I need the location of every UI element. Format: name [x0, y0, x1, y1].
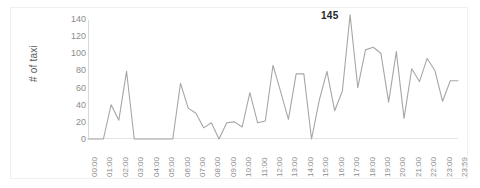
x-tick-label: 16:00 — [338, 157, 346, 177]
x-tick-label: 17:00 — [353, 157, 361, 177]
x-tick-label: 22:00 — [430, 157, 438, 177]
taxi-count-line-series — [88, 15, 458, 139]
x-tick-label: 08:00 — [214, 157, 222, 177]
y-axis-tick-labels: 140120100806040200 — [56, 19, 86, 143]
x-tick-label: 19:00 — [384, 157, 392, 177]
x-tick-label: 09:00 — [230, 157, 238, 177]
x-tick-label: 13:00 — [291, 157, 299, 177]
x-tick-label: 07:00 — [199, 157, 207, 177]
x-tick-label: 18:00 — [369, 157, 377, 177]
x-tick-label: 10:00 — [245, 157, 253, 177]
x-tick-label: 12:00 — [276, 157, 284, 177]
x-tick-label: 14:00 — [307, 157, 315, 177]
plot-area — [88, 19, 458, 139]
x-tick-label: 03:00 — [137, 157, 145, 177]
x-tick-label: 04:00 — [153, 157, 161, 177]
y-tick-label: 60 — [76, 84, 86, 93]
x-tick-label: 05:00 — [168, 157, 176, 177]
x-tick-label: 02:00 — [122, 157, 130, 177]
y-tick-label: 20 — [76, 118, 86, 127]
x-tick-label: 01:00 — [106, 157, 114, 177]
x-tick-label: 23:00 — [446, 157, 454, 177]
y-tick-label: 120 — [71, 32, 86, 41]
x-tick-label: 15:00 — [322, 157, 330, 177]
x-axis-tick-labels: 00:0001:0002:0003:0004:0005:0006:0007:00… — [88, 143, 458, 188]
x-tick-label: 21:00 — [415, 157, 423, 177]
y-tick-label: 100 — [71, 49, 86, 58]
y-tick-label: 40 — [76, 101, 86, 110]
x-tick-label: 23:59 — [461, 157, 469, 177]
taxi-count-chart-figure: # of taxi 140120100806040200 145 00:0001… — [0, 0, 480, 188]
x-tick-label: 20:00 — [399, 157, 407, 177]
x-tick-label: 06:00 — [184, 157, 192, 177]
x-tick-label: 00:00 — [91, 157, 99, 177]
y-axis-label: # of taxi — [28, 19, 39, 109]
y-tick-label: 0 — [81, 135, 86, 144]
y-tick-label: 140 — [71, 15, 86, 24]
y-tick-label: 80 — [76, 66, 86, 75]
peak-value-annotation: 145 — [321, 10, 339, 21]
line-series-svg — [88, 19, 458, 139]
x-tick-label: 11:00 — [261, 158, 269, 177]
